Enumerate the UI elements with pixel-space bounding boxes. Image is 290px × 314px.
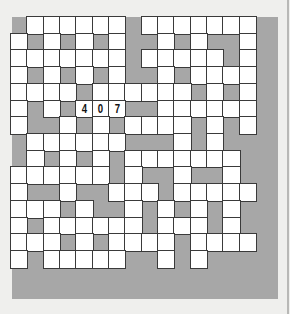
- grid-cell[interactable]: [142, 234, 158, 251]
- grid-cell[interactable]: [60, 84, 76, 101]
- grid-cell[interactable]: [191, 34, 207, 51]
- grid-cell[interactable]: [125, 234, 141, 251]
- grid-cell[interactable]: [125, 167, 141, 184]
- grid-cell[interactable]: [223, 201, 239, 218]
- grid-cell[interactable]: [158, 251, 174, 268]
- grid-cell[interactable]: [207, 134, 223, 151]
- grid-cell[interactable]: [44, 67, 60, 84]
- grid-cell[interactable]: [109, 184, 125, 201]
- grid-cell[interactable]: [11, 84, 27, 101]
- grid-cell[interactable]: [11, 50, 27, 67]
- grid-cell[interactable]: [44, 201, 60, 218]
- grid-cell[interactable]: 7: [109, 101, 125, 118]
- grid-cell[interactable]: [44, 50, 60, 67]
- grid-cell[interactable]: [93, 151, 109, 168]
- grid-cell[interactable]: [191, 184, 207, 201]
- grid-cell[interactable]: [27, 84, 43, 101]
- grid-cell[interactable]: [27, 167, 43, 184]
- grid-cell[interactable]: [109, 234, 125, 251]
- grid-cell[interactable]: [60, 50, 76, 67]
- grid-cell[interactable]: [125, 117, 141, 134]
- grid-cell[interactable]: [109, 218, 125, 235]
- grid-cell[interactable]: [76, 134, 92, 151]
- grid-cell[interactable]: [174, 50, 190, 67]
- grid-cell[interactable]: [109, 67, 125, 84]
- grid-cell[interactable]: [44, 234, 60, 251]
- grid-cell[interactable]: [109, 17, 125, 34]
- grid-cell[interactable]: [174, 218, 190, 235]
- grid-cell[interactable]: [11, 184, 27, 201]
- grid-cell[interactable]: [191, 50, 207, 67]
- grid-cell[interactable]: [11, 218, 27, 235]
- grid-cell[interactable]: [76, 218, 92, 235]
- grid-cell[interactable]: [44, 17, 60, 34]
- grid-cell[interactable]: [158, 34, 174, 51]
- grid-cell[interactable]: [60, 251, 76, 268]
- grid-cell[interactable]: [158, 50, 174, 67]
- grid-cell[interactable]: [174, 184, 190, 201]
- grid-cell[interactable]: [207, 84, 223, 101]
- grid-cell[interactable]: [60, 167, 76, 184]
- grid-cell[interactable]: [27, 50, 43, 67]
- grid-cell[interactable]: [109, 251, 125, 268]
- grid-cell[interactable]: [191, 17, 207, 34]
- grid-cell[interactable]: [191, 101, 207, 118]
- grid-cell[interactable]: [76, 251, 92, 268]
- grid-cell[interactable]: [76, 50, 92, 67]
- grid-cell[interactable]: [11, 251, 27, 268]
- grid-cell[interactable]: [207, 67, 223, 84]
- grid-cell[interactable]: [11, 234, 27, 251]
- grid-cell[interactable]: [60, 17, 76, 34]
- grid-cell[interactable]: [174, 134, 190, 151]
- grid-cell[interactable]: [174, 151, 190, 168]
- grid-cell[interactable]: [207, 117, 223, 134]
- grid-cell[interactable]: [158, 151, 174, 168]
- grid-cell[interactable]: [44, 34, 60, 51]
- grid-cell[interactable]: [240, 67, 256, 84]
- grid-cell[interactable]: [223, 17, 239, 34]
- grid-cell[interactable]: [158, 101, 174, 118]
- grid-cell[interactable]: [174, 84, 190, 101]
- grid-cell[interactable]: [191, 151, 207, 168]
- grid-cell[interactable]: [174, 117, 190, 134]
- grid-cell[interactable]: [223, 101, 239, 118]
- grid-cell[interactable]: [76, 167, 92, 184]
- grid-cell[interactable]: [76, 201, 92, 218]
- grid-cell[interactable]: [11, 167, 27, 184]
- grid-cell[interactable]: [27, 201, 43, 218]
- grid-cell[interactable]: [174, 17, 190, 34]
- grid-cell[interactable]: [44, 101, 60, 118]
- grid-cell[interactable]: [240, 34, 256, 51]
- grid-cell[interactable]: [142, 50, 158, 67]
- grid-cell[interactable]: [158, 67, 174, 84]
- grid-cell[interactable]: [93, 84, 109, 101]
- grid-cell[interactable]: [76, 34, 92, 51]
- grid-cell[interactable]: [93, 251, 109, 268]
- grid-cell[interactable]: [158, 17, 174, 34]
- grid-cell[interactable]: [109, 34, 125, 51]
- grid-cell[interactable]: [11, 201, 27, 218]
- grid-cell[interactable]: [11, 34, 27, 51]
- grid-cell[interactable]: [125, 218, 141, 235]
- grid-cell[interactable]: [93, 17, 109, 34]
- grid-cell[interactable]: [93, 218, 109, 235]
- grid-cell[interactable]: [158, 218, 174, 235]
- grid-cell[interactable]: [191, 251, 207, 268]
- grid-cell[interactable]: [93, 167, 109, 184]
- grid-cell[interactable]: [93, 134, 109, 151]
- grid-cell[interactable]: [207, 151, 223, 168]
- grid-cell[interactable]: [60, 117, 76, 134]
- grid-cell[interactable]: 0: [93, 101, 109, 118]
- grid-cell[interactable]: [191, 234, 207, 251]
- grid-cell[interactable]: [158, 234, 174, 251]
- grid-cell[interactable]: [223, 67, 239, 84]
- grid-cell[interactable]: [44, 134, 60, 151]
- grid-cell[interactable]: [191, 218, 207, 235]
- grid-cell[interactable]: [11, 101, 27, 118]
- grid-cell[interactable]: [174, 167, 190, 184]
- grid-cell[interactable]: [191, 201, 207, 218]
- grid-cell[interactable]: [207, 234, 223, 251]
- grid-cell[interactable]: [60, 184, 76, 201]
- grid-cell[interactable]: [44, 218, 60, 235]
- grid-cell[interactable]: [11, 67, 27, 84]
